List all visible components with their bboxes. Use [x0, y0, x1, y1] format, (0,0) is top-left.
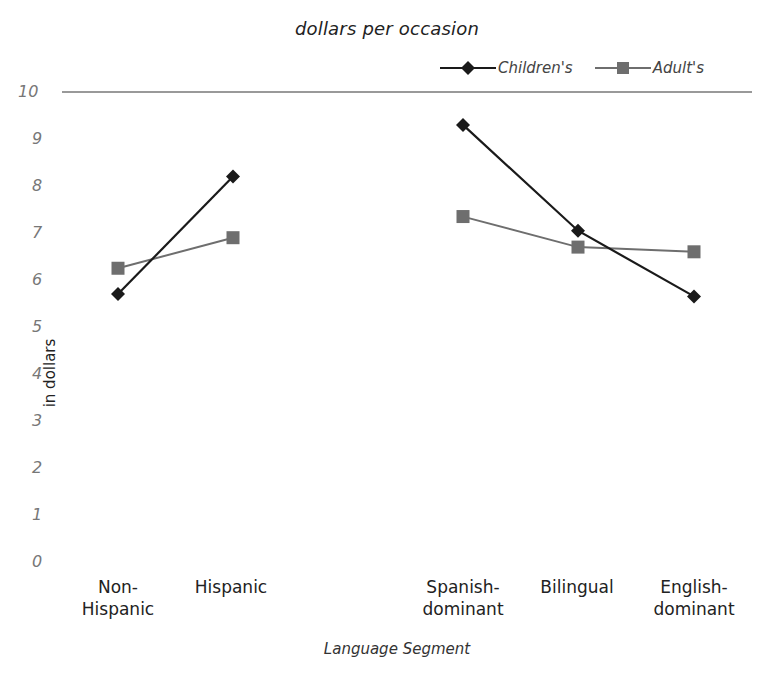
square-marker-icon	[457, 210, 470, 223]
series-line	[463, 125, 694, 297]
xcat-non-hispanic: Non- Hispanic	[82, 576, 154, 620]
diamond-marker-icon	[687, 289, 701, 303]
square-marker-icon	[572, 241, 585, 254]
xcat-hispanic: Hispanic	[195, 576, 267, 598]
series-childrens	[111, 118, 701, 304]
xcat-spanish-dominant: Spanish- dominant	[422, 576, 503, 620]
series-line	[118, 238, 233, 269]
square-marker-icon	[227, 231, 240, 244]
series-layer	[111, 118, 701, 304]
xcat-bilingual: Bilingual	[540, 576, 613, 598]
series-adults	[112, 210, 701, 275]
square-marker-icon	[688, 245, 701, 258]
series-line	[118, 177, 233, 295]
xcat-english-dominant: English- dominant	[653, 576, 734, 620]
x-axis-label: Language Segment	[0, 640, 774, 658]
square-marker-icon	[112, 262, 125, 275]
